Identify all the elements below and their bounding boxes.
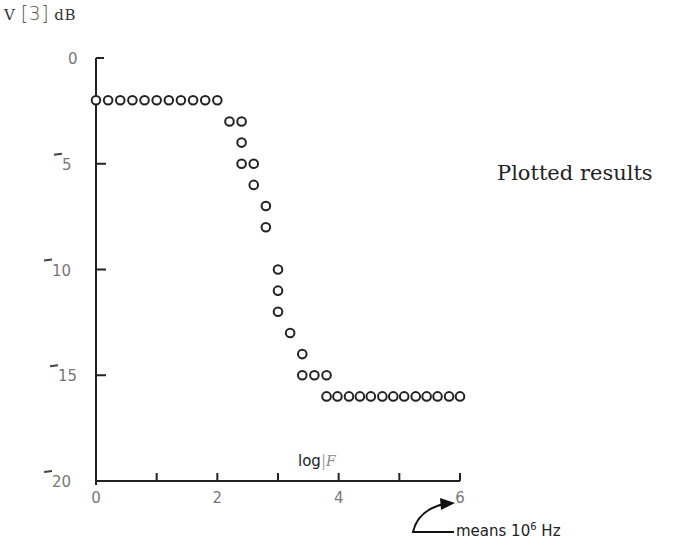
data-point [411,392,420,401]
data-point [177,96,186,105]
data-point [116,96,125,105]
data-point [213,96,222,105]
data-point [322,392,331,401]
y-tick-label: 5 [62,156,72,174]
data-point [274,265,283,274]
data-point [445,392,454,401]
data-point [322,371,331,380]
data-point [237,138,246,147]
y-tick-label: 0 [68,50,78,68]
data-point [165,96,174,105]
side-annotation: Plotted results [497,161,653,185]
data-point [333,392,342,401]
data-point [249,181,258,190]
data-point [389,392,398,401]
x-axis-title-f: F [326,453,336,469]
data-point [189,96,198,105]
data-point [433,392,442,401]
x-axis-title-log: log [298,452,321,470]
x-tick-label: 4 [334,489,344,507]
arrow-head-icon [440,498,455,510]
data-point [286,329,295,338]
data-point [152,96,161,105]
minus-sign [44,260,52,261]
data-point [237,117,246,126]
data-point [225,117,234,126]
data-point [422,392,431,401]
x-tick-label: 0 [91,489,101,507]
data-point [367,392,376,401]
data-point [298,371,307,380]
y-tick-label: 10 [52,262,71,280]
data-point [201,96,210,105]
data-point [249,159,258,168]
data-point [310,371,319,380]
minus-sign [50,365,58,366]
x-unit-note-prefix: means 10 [456,522,530,540]
data-point [356,392,365,401]
data-point [262,202,271,211]
x-unit-note-suffix: Hz [537,522,561,540]
data-point [274,308,283,317]
data-point [456,392,465,401]
curved-arrow-icon [413,504,444,532]
data-point [262,223,271,232]
chart-plot-area: 051015200246 [0,0,697,551]
data-point [274,286,283,295]
data-point [345,392,354,401]
data-point [400,392,409,401]
x-tick-label: 6 [455,489,465,507]
x-axis-title: log|F [298,452,336,470]
y-tick-label: 15 [58,367,77,385]
y-tick-label: 20 [52,473,71,491]
data-point [140,96,149,105]
data-point [298,350,307,359]
data-point [378,392,387,401]
data-point [237,159,246,168]
data-point [92,96,101,105]
minus-sign [54,154,62,155]
x-unit-note: means 106 Hz [456,521,561,540]
x-tick-label: 2 [213,489,223,507]
data-point [104,96,113,105]
minus-sign [44,471,52,472]
data-point [128,96,137,105]
